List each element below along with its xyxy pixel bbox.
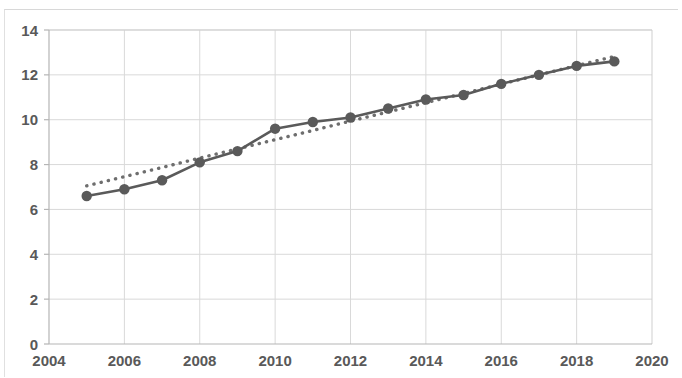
x-tick-label: 2016 [485,352,518,369]
data-point-marker [195,157,205,167]
y-tick-label: 4 [30,246,39,263]
data-point-marker [345,112,355,122]
x-axis-tick-labels: 200420062008201020122014201620182020 [32,352,668,369]
data-point-marker [81,191,91,201]
data-point-marker [496,79,506,89]
data-point-marker [270,123,280,133]
data-point-marker [383,103,393,113]
x-tick-label: 2010 [258,352,291,369]
y-tick-label: 10 [21,111,38,128]
y-tick-label: 2 [30,291,38,308]
x-tick-label: 2004 [32,352,66,369]
x-tick-label: 2006 [108,352,141,369]
x-tick-label: 2020 [635,352,668,369]
x-tick-label: 2012 [334,352,367,369]
x-tick-label: 2008 [183,352,216,369]
y-tick-label: 8 [30,156,38,173]
data-point-marker [421,94,431,104]
data-point-marker [119,184,129,194]
y-tick-label: 12 [21,66,38,83]
data-point-marker [571,61,581,71]
data-point-marker [157,175,167,185]
data-point-marker [609,56,619,66]
data-point-marker [534,70,544,80]
chart-canvas: 02468101214 2004200620082010201220142016… [0,0,682,378]
y-axis-tick-labels: 02468101214 [21,22,38,353]
y-tick-label: 0 [30,336,38,353]
x-tick-label: 2014 [409,352,443,369]
x-tick-label: 2018 [560,352,593,369]
y-tick-label: 14 [21,22,38,39]
y-axis-tick-marks [44,30,49,344]
line-chart: 02468101214 2004200620082010201220142016… [0,0,682,378]
y-tick-label: 6 [30,201,38,218]
chart-screenshot: 02468101214 2004200620082010201220142016… [0,0,682,378]
data-point-marker [232,146,242,156]
data-point-marker [458,90,468,100]
data-point-marker [308,117,318,127]
